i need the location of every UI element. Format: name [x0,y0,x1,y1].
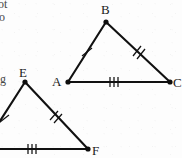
vertex-dot-b [103,19,108,24]
side-bc [106,22,170,82]
vertex-label-c: C [173,75,182,90]
vertex-dot-f [85,146,90,151]
fragment-left-1: g [0,72,6,86]
tick-marks-ab [82,48,92,56]
geometry-figure: A B C [0,0,182,158]
tick-marks-ef [50,111,62,123]
side-ef [25,82,88,149]
triangle-abc: A B C [52,2,182,90]
vertex-dot-e [22,79,27,84]
vertex-label-a: A [52,74,62,89]
vertex-dot-a [65,79,70,84]
fragment-top-2: o [0,10,5,24]
vertex-label-e: E [19,65,27,80]
vertex-label-f: F [92,143,99,158]
vertex-label-b: B [101,2,110,17]
figure-page: A B C [0,0,182,158]
side-de [0,82,25,149]
vertex-dot-c [167,79,172,84]
triangle-def: E F [0,65,99,158]
cropped-text-fragments: ot o g [0,0,8,86]
